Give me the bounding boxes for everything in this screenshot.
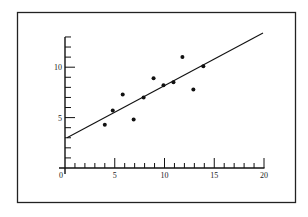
scatter-chart: 05101520510: [0, 0, 308, 217]
axis-ticks: [65, 37, 264, 168]
data-point: [152, 76, 156, 80]
y-tick-label: 5: [58, 114, 62, 123]
data-point: [180, 55, 184, 59]
data-point: [142, 95, 146, 99]
data-point: [162, 83, 166, 87]
data-point: [191, 87, 195, 91]
y-tick-label: 10: [54, 63, 62, 72]
data-point: [111, 109, 115, 113]
data-point: [201, 64, 205, 68]
x-tick-label: 15: [210, 171, 218, 180]
data-point: [171, 80, 175, 84]
tick-labels: 05101520510: [54, 63, 268, 180]
x-tick-label: 10: [161, 171, 169, 180]
data-point: [103, 123, 107, 127]
x-tick-label: 5: [113, 171, 117, 180]
data-point: [121, 92, 125, 96]
data-point: [132, 118, 136, 122]
x-tick-label: 20: [260, 171, 268, 180]
x-tick-label: 0: [59, 171, 63, 180]
